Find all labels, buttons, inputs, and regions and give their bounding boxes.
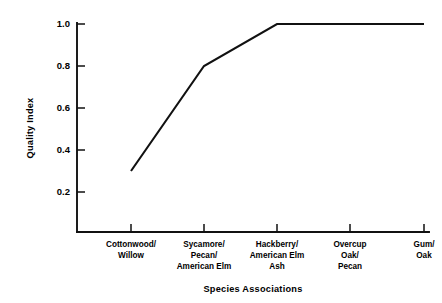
y-axis-tick-labels: 1.0 0.8 0.6 0.4 0.2 — [57, 18, 71, 197]
x-tick-label-line: Ash — [269, 262, 284, 271]
x-tick-label-line: American Elm — [177, 262, 232, 271]
x-tick-label-line: American Elm — [250, 251, 305, 260]
x-axis-title: Species Associations — [203, 284, 302, 294]
y-tick-label: 0.6 — [57, 102, 70, 113]
y-tick-label: 0.8 — [57, 60, 70, 71]
x-tick-label-group: Overcup Oak/ Pecan — [333, 240, 366, 271]
x-tick-label-group: Hackberry/ American Elm Ash — [250, 240, 305, 271]
y-axis-title: Quality Index — [25, 97, 35, 159]
x-tick-label-line: Overcup — [333, 240, 366, 249]
x-tick-label-group: Sycamore/ Pecan/ American Elm — [177, 240, 232, 271]
x-tick-label-group: Gum/ Oak — [414, 240, 436, 260]
data-series-line — [131, 24, 424, 171]
x-tick-label-line: Oak/ — [341, 251, 359, 260]
x-tick-label-line: Hackberry/ — [256, 240, 299, 249]
x-tick-label-line: Sycamore/ — [183, 240, 225, 249]
x-tick-label-line: Cottonwood/ — [106, 240, 157, 249]
x-tick-label-line: Willow — [118, 251, 144, 260]
x-tick-label-line: Pecan/ — [191, 251, 218, 260]
y-tick-label: 0.4 — [57, 144, 71, 155]
x-tick-label-line: Oak — [416, 251, 432, 260]
x-axis-ticks — [131, 224, 424, 232]
y-tick-label: 1.0 — [57, 18, 70, 29]
x-tick-label-group: Cottonwood/ Willow — [106, 240, 157, 260]
x-axis-tick-labels: Cottonwood/ Willow Sycamore/ Pecan/ Amer… — [106, 240, 435, 271]
chart-figure: Quality Index 1.0 0.8 0.6 0.4 0.2 — [0, 0, 442, 303]
x-tick-label-line: Gum/ — [414, 240, 436, 249]
y-tick-label: 0.2 — [57, 186, 70, 197]
quality-index-line-chart: Quality Index 1.0 0.8 0.6 0.4 0.2 — [0, 0, 442, 303]
y-axis-ticks — [77, 24, 85, 192]
x-tick-label-line: Pecan — [338, 262, 362, 271]
